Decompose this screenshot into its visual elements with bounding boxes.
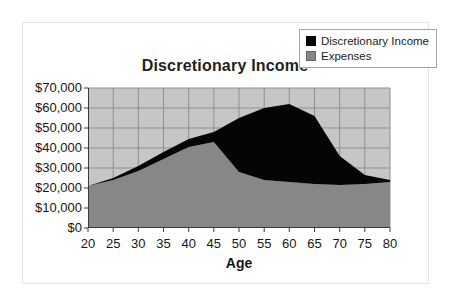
y-axis-tick-label: $0 — [18, 220, 82, 236]
y-axis-tick-label: $20,000 — [18, 180, 82, 196]
y-axis-tick-label: $40,000 — [18, 140, 82, 156]
x-axis-tick-label: 65 — [302, 236, 328, 252]
x-axis-tick-label: 35 — [151, 236, 177, 252]
x-axis-tick-label: 70 — [327, 236, 353, 252]
y-axis-tick-label: $70,000 — [18, 80, 82, 96]
chart-panel: Discretionary Income Discretionary Incom… — [0, 0, 454, 308]
y-axis-tick-label: $50,000 — [18, 120, 82, 136]
expenses-swatch-icon — [306, 51, 316, 61]
legend: Discretionary Income Expenses — [299, 29, 437, 68]
x-axis-tick-label: 75 — [352, 236, 378, 252]
x-axis-tick-label: 80 — [377, 236, 403, 252]
x-axis-tick-label: 45 — [201, 236, 227, 252]
x-axis-tick-label: 60 — [276, 236, 302, 252]
x-axis-tick-label: 25 — [100, 236, 126, 252]
y-axis-tick-label: $30,000 — [18, 160, 82, 176]
y-axis-tick-label: $60,000 — [18, 100, 82, 116]
x-axis-tick-label: 30 — [125, 236, 151, 252]
x-axis-title: Age — [88, 255, 390, 272]
legend-label-discretionary-income: Discretionary Income — [321, 35, 429, 47]
legend-item-discretionary-income: Discretionary Income — [306, 33, 431, 48]
x-axis-tick-label: 40 — [176, 236, 202, 252]
legend-label-expenses: Expenses — [321, 50, 372, 62]
legend-item-expenses: Expenses — [306, 48, 431, 63]
y-axis-tick-label: $10,000 — [18, 200, 82, 216]
plot-area — [88, 88, 390, 228]
x-axis-tick-label: 20 — [75, 236, 101, 252]
x-axis-tick-label: 50 — [226, 236, 252, 252]
x-axis-tick-label: 55 — [251, 236, 277, 252]
discretionary-income-swatch-icon — [306, 36, 316, 46]
